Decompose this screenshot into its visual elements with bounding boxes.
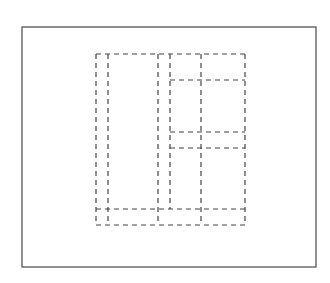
outer-frame — [22, 27, 316, 267]
layout-grid-diagram — [0, 0, 330, 283]
dashed-grid-lines — [96, 54, 245, 225]
